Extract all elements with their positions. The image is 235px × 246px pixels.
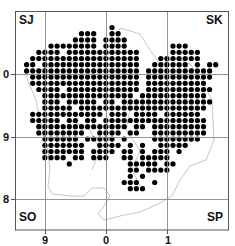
record-dot — [61, 68, 66, 73]
record-dot — [158, 68, 163, 73]
record-dot — [42, 130, 47, 135]
record-dot — [128, 56, 133, 61]
record-dot — [183, 112, 188, 117]
record-dot — [67, 130, 72, 135]
record-dot — [73, 62, 78, 67]
record-dot — [55, 155, 60, 160]
record-dot — [85, 68, 90, 73]
record-dot — [164, 149, 169, 154]
record-dot — [91, 44, 96, 49]
record-dot — [158, 99, 163, 104]
record-dot — [48, 155, 53, 160]
record-dot — [164, 124, 169, 129]
record-dot — [170, 106, 175, 111]
record-dot — [103, 56, 108, 61]
record-dot — [170, 44, 175, 49]
record-dot — [67, 118, 72, 123]
record-dot — [146, 161, 151, 166]
record-dot — [73, 37, 78, 42]
record-dot — [183, 56, 188, 61]
record-dot — [183, 87, 188, 92]
record-dot — [146, 118, 151, 123]
record-dot — [140, 155, 145, 160]
record-dot — [122, 93, 127, 98]
record-dot — [109, 112, 114, 117]
record-dot — [177, 75, 182, 80]
record-dot — [79, 130, 84, 135]
record-dot — [91, 81, 96, 86]
record-dot — [116, 118, 121, 123]
record-dot — [109, 31, 114, 36]
record-dot — [97, 149, 102, 154]
record-dot — [67, 44, 72, 49]
record-dot — [146, 93, 151, 98]
record-dot — [24, 62, 29, 67]
record-dot — [48, 62, 53, 67]
record-dot — [170, 112, 175, 117]
record-dot — [177, 62, 182, 67]
record-dot — [97, 62, 102, 67]
record-dot — [97, 87, 102, 92]
record-dot — [146, 99, 151, 104]
record-dot — [48, 93, 53, 98]
record-dot — [42, 81, 47, 86]
record-dot — [134, 68, 139, 73]
record-dot — [67, 56, 72, 61]
record-dot — [146, 68, 151, 73]
record-dot — [134, 118, 139, 123]
record-dot — [170, 75, 175, 80]
record-dot — [103, 68, 108, 73]
record-dot — [91, 50, 96, 55]
record-dot — [158, 87, 163, 92]
record-dot — [73, 99, 78, 104]
record-dot — [109, 75, 114, 80]
record-dot — [48, 75, 53, 80]
record-dot — [128, 93, 133, 98]
record-dot — [177, 124, 182, 129]
record-dot — [170, 68, 175, 73]
record-dot — [183, 62, 188, 67]
record-dot — [67, 93, 72, 98]
record-dot — [177, 118, 182, 123]
record-dot — [189, 87, 194, 92]
record-dot — [128, 62, 133, 67]
record-dot — [103, 106, 108, 111]
record-dot — [195, 93, 200, 98]
record-dot — [48, 112, 53, 117]
record-dot — [128, 186, 133, 191]
record-dot — [67, 106, 72, 111]
record-dot — [79, 62, 84, 67]
record-dot — [91, 99, 96, 104]
record-dot — [122, 112, 127, 117]
record-dot — [109, 44, 114, 49]
record-dot — [140, 143, 145, 148]
record-dot — [201, 124, 206, 129]
record-dot — [140, 161, 145, 166]
record-dot — [170, 62, 175, 67]
record-dot — [73, 155, 78, 160]
record-dot — [183, 50, 188, 55]
record-dot — [73, 149, 78, 154]
record-dot — [61, 106, 66, 111]
record-dot — [122, 75, 127, 80]
record-dot — [164, 93, 169, 98]
record-dot — [183, 75, 188, 80]
record-dot — [91, 37, 96, 42]
record-dot — [128, 106, 133, 111]
record-dot — [134, 81, 139, 86]
record-dot — [36, 56, 41, 61]
record-dot — [122, 37, 127, 42]
record-dot — [36, 81, 41, 86]
record-dot — [152, 75, 157, 80]
record-dot — [36, 130, 41, 135]
record-dot — [48, 56, 53, 61]
record-dot — [158, 106, 163, 111]
record-dot — [36, 118, 41, 123]
record-dot — [97, 130, 102, 135]
record-dot — [183, 68, 188, 73]
record-dot — [189, 68, 194, 73]
record-dot — [128, 87, 133, 92]
record-dot — [79, 124, 84, 129]
record-dot — [103, 44, 108, 49]
record-dot — [91, 68, 96, 73]
